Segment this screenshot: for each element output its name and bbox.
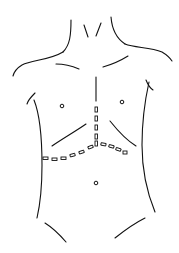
torso-diagram [0, 0, 179, 253]
rib-margins [52, 121, 136, 146]
neck-outline [63, 17, 125, 52]
nipples [60, 100, 124, 108]
incision-line-dashed [43, 107, 127, 161]
umbilicus [94, 181, 98, 185]
torso-sides [27, 80, 155, 218]
shoulder-outline [13, 44, 172, 76]
clavicles [56, 56, 128, 69]
groin-lines [45, 218, 145, 242]
